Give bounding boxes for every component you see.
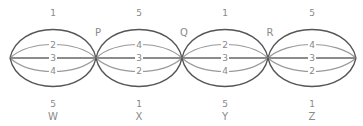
segment-label-z: Z bbox=[309, 111, 316, 122]
segment-label-x: X bbox=[136, 111, 143, 122]
label-top: 5 bbox=[136, 8, 142, 18]
diagram-svg: 1 2 3 4 5 W 5 4 3 2 1 bbox=[0, 0, 363, 126]
segment-z: 5 4 3 2 1 Z bbox=[268, 7, 356, 122]
label-bottom: 1 bbox=[309, 99, 315, 109]
label-lower: 4 bbox=[222, 66, 228, 76]
label-middle: 3 bbox=[309, 53, 315, 63]
node-label-q: Q bbox=[180, 27, 188, 38]
segment-y: 1 2 3 4 5 Y bbox=[182, 7, 268, 122]
label-bottom: 5 bbox=[222, 99, 228, 109]
label-middle: 3 bbox=[222, 53, 228, 63]
node-label-r: R bbox=[267, 27, 274, 38]
segment-label-w: W bbox=[48, 111, 58, 122]
label-top: 5 bbox=[309, 8, 315, 18]
node-label-p: P bbox=[95, 27, 101, 38]
label-lower: 2 bbox=[136, 66, 142, 76]
label-bottom: 5 bbox=[50, 99, 56, 109]
lens-diagram: 1 2 3 4 5 W 5 4 3 2 1 bbox=[0, 0, 363, 126]
label-upper: 4 bbox=[309, 40, 315, 50]
segment-label-y: Y bbox=[221, 111, 229, 122]
label-upper: 2 bbox=[50, 40, 56, 50]
label-middle: 3 bbox=[50, 53, 56, 63]
label-lower: 2 bbox=[309, 66, 315, 76]
label-upper: 4 bbox=[136, 40, 142, 50]
segment-w: 1 2 3 4 5 W bbox=[10, 7, 96, 122]
label-top: 1 bbox=[222, 8, 228, 18]
label-bottom: 1 bbox=[136, 99, 142, 109]
segment-x: 5 4 3 2 1 X bbox=[96, 7, 182, 122]
label-top: 1 bbox=[50, 8, 56, 18]
label-upper: 2 bbox=[222, 40, 228, 50]
label-lower: 4 bbox=[50, 66, 56, 76]
label-middle: 3 bbox=[136, 53, 142, 63]
